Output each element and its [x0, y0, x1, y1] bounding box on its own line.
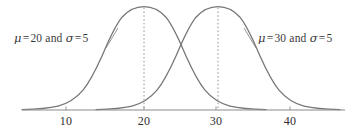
annotation-right-curve: μ=30 and σ=5	[258, 31, 332, 45]
x-tick-label-30: 30	[210, 114, 223, 129]
leader-line-right	[244, 28, 256, 48]
plot-canvas	[0, 0, 358, 138]
x-tick-label-40: 40	[284, 114, 297, 129]
x-tick-label-20: 20	[138, 114, 151, 129]
leader-line-left	[106, 28, 118, 48]
normal-distributions-figure: μ=20 and σ=5 μ=30 and σ=5 10 20 30 40	[0, 0, 358, 138]
mu-value-left: 20	[30, 32, 42, 44]
x-tick-label-10: 10	[60, 114, 73, 129]
sigma-value-left: 5	[82, 32, 88, 44]
mu-symbol-left: μ	[14, 31, 22, 45]
conjunction-right: and	[289, 32, 306, 44]
mu-symbol-right: μ	[258, 31, 266, 45]
conjunction-left: and	[45, 32, 62, 44]
mu-value-right: 30	[274, 32, 286, 44]
annotation-left-curve: μ=20 and σ=5	[14, 31, 88, 45]
sigma-value-right: 5	[326, 32, 332, 44]
sigma-symbol-left: σ	[66, 31, 74, 45]
sigma-symbol-right: σ	[310, 31, 318, 45]
